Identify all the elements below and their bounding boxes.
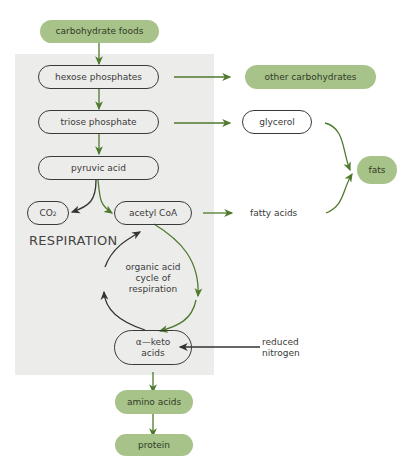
respiration-title: RESPIRATION <box>29 235 149 246</box>
keto-line-2: acids <box>141 348 164 359</box>
node-carbohydrate-foods: carbohydrate foods <box>40 20 159 43</box>
cycle-line-3: respiration <box>118 284 188 295</box>
node-other-carbohydrates: other carbohydrates <box>245 65 376 89</box>
node-acetyl-coa: acetyl CoA <box>114 201 192 225</box>
node-amino-acids: amino acids <box>115 390 193 414</box>
label-reduced-nitrogen: reduced nitrogen <box>262 337 312 359</box>
co2-subscript: 2 <box>53 208 57 219</box>
diagram-canvas: carbohydrate foods hexose phosphates oth… <box>0 0 408 456</box>
cycle-line-2: cycle of <box>118 273 188 284</box>
reduced-line-1: reduced <box>262 337 312 348</box>
node-hexose-phosphates: hexose phosphates <box>38 65 159 89</box>
label-organic-acid-cycle: organic acid cycle of respiration <box>118 262 188 295</box>
node-glycerol: glycerol <box>242 110 312 134</box>
cycle-line-1: organic acid <box>118 262 188 273</box>
node-co2: CO2 <box>27 201 69 225</box>
node-fats: fats <box>357 156 397 184</box>
node-triose-phosphate: triose phosphate <box>38 110 159 134</box>
label-fatty-acids: fatty acids <box>250 208 310 219</box>
reduced-line-2: nitrogen <box>262 348 312 359</box>
node-protein: protein <box>115 434 193 456</box>
co2-text: CO <box>39 208 52 219</box>
node-pyruvic-acid: pyruvic acid <box>38 156 159 180</box>
keto-line-1: α—keto <box>136 337 170 348</box>
node-alpha-keto-acids: α—keto acids <box>114 330 192 365</box>
